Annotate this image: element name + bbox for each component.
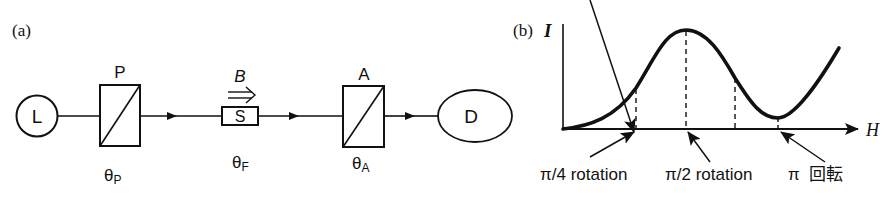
- panel-b-label: (b): [513, 21, 533, 40]
- pointer-arrow-icon: [590, 132, 634, 157]
- magnetic-field-label: B: [234, 67, 245, 86]
- double-arrow-icon: [228, 87, 255, 103]
- annotation-full-rotation: π 回転: [788, 165, 843, 184]
- panel-b: (b) I H π/4 rotation π/2 rotation π 回転: [513, 0, 880, 184]
- detector-symbol: D: [464, 106, 478, 127]
- analyzer: A θA: [343, 65, 384, 175]
- annotation-half-rotation: π/2 rotation: [665, 165, 752, 184]
- figure-canvas: (a) L P θP B: [0, 0, 888, 204]
- light-source: L: [17, 96, 58, 137]
- light-source-symbol: L: [32, 106, 43, 127]
- polarizer-label: P: [114, 63, 125, 82]
- polarizer-angle: θP: [104, 166, 121, 187]
- y-axis-label: I: [543, 20, 552, 41]
- panel-a-label: (a): [12, 21, 31, 40]
- panel-a: (a) L P θP B: [12, 21, 512, 187]
- analyzer-label: A: [358, 65, 370, 84]
- pointer-arrow-icon: [781, 132, 825, 162]
- detector: D: [438, 90, 512, 142]
- sample: B S θF: [222, 67, 258, 174]
- polarizer: P θP: [100, 63, 140, 187]
- analyzer-angle: θA: [352, 154, 369, 175]
- annotation-quarter-rotation: π/4 rotation: [540, 165, 627, 184]
- sample-angle: θF: [232, 153, 249, 174]
- pointer-arrow-icon: [688, 132, 710, 162]
- sample-symbol: S: [235, 108, 246, 125]
- x-axis-label: H: [865, 120, 880, 140]
